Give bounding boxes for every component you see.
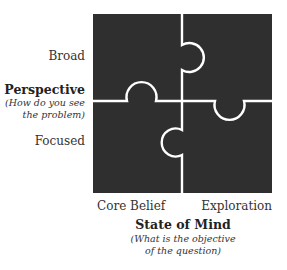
x-axis-right-label: Exploration (201, 200, 272, 212)
puzzle-piece-top-right (182, 14, 272, 101)
x-axis-subtitle-line2: of the question) (113, 245, 253, 257)
x-axis-title: State of Mind (123, 219, 243, 232)
puzzle-piece-bottom-right (182, 101, 272, 193)
y-axis-top-label: Broad (48, 50, 85, 62)
y-axis-subtitle-line2: the problem) (23, 109, 85, 121)
y-axis-subtitle-line1: (How do you see (5, 97, 85, 109)
y-axis-bottom-label: Focused (35, 135, 85, 147)
puzzle-piece-bottom-left (93, 101, 182, 193)
x-axis-subtitle-line1: (What is the objective (113, 233, 253, 245)
y-axis-title: Perspective (4, 84, 85, 97)
x-axis-left-label: Core Belief (97, 200, 165, 212)
puzzle-piece-top-left (93, 14, 182, 101)
